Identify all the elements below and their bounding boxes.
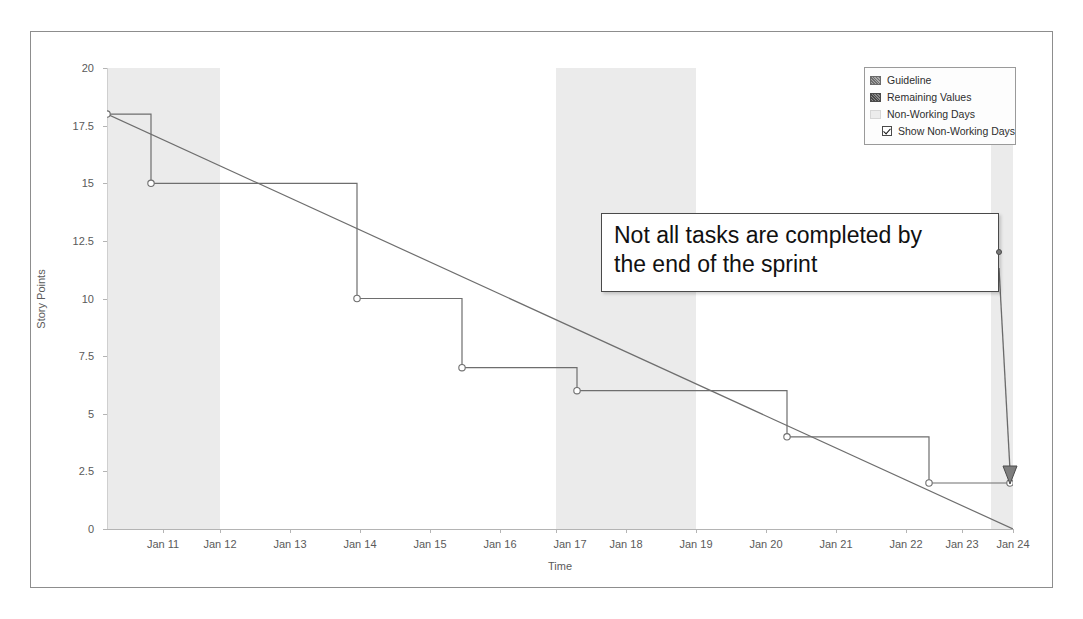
legend-item-non-working-days: Non-Working Days xyxy=(870,106,1010,122)
annotation-callout-text: Not all tasks are completed by the end o… xyxy=(614,221,986,279)
y-tick-label: 12.5 xyxy=(34,235,94,247)
guideline-swatch-icon xyxy=(870,76,881,85)
annotation-line-1: Not all tasks are completed by xyxy=(614,222,922,248)
data-point-marker xyxy=(459,365,465,371)
x-tick-label: Jan 24 xyxy=(978,538,1048,550)
remaining-values-swatch-icon xyxy=(870,93,881,102)
x-tick-mark xyxy=(430,529,431,533)
y-tick-label: 2.5 xyxy=(34,465,94,477)
data-point-marker xyxy=(574,388,580,394)
x-tick-mark xyxy=(766,529,767,533)
x-tick-mark xyxy=(1013,529,1014,533)
y-tick-label: 0 xyxy=(34,523,94,535)
show-non-working-days-checkbox[interactable] xyxy=(882,126,892,136)
legend-item-remaining-values: Remaining Values xyxy=(870,89,1010,105)
document-page: 20 17.5 15 12.5 10 7.5 5 2.5 0 Jan 11 Ja… xyxy=(0,0,1083,619)
x-tick-label: Jan 18 xyxy=(591,538,661,550)
x-tick-mark xyxy=(696,529,697,533)
x-axis-title: Time xyxy=(548,560,572,572)
remaining-values-series xyxy=(107,114,1013,483)
x-tick-label: Jan 16 xyxy=(465,538,535,550)
y-axis-title: Story Points xyxy=(35,269,47,328)
show-non-working-days-label: Show Non-Working Days xyxy=(898,126,1015,137)
y-tick-mark xyxy=(103,529,107,530)
data-point-marker xyxy=(354,295,360,301)
x-tick-label: Jan 21 xyxy=(801,538,871,550)
x-tick-mark xyxy=(836,529,837,533)
x-tick-mark xyxy=(962,529,963,533)
x-axis-line xyxy=(107,529,1013,530)
non-working-days-swatch-icon xyxy=(870,110,881,119)
x-tick-label: Jan 13 xyxy=(255,538,325,550)
x-tick-mark xyxy=(163,529,164,533)
x-tick-mark xyxy=(290,529,291,533)
guideline-series xyxy=(107,114,1013,529)
data-point-marker xyxy=(148,180,154,186)
show-non-working-days-row[interactable]: Show Non-Working Days xyxy=(870,123,1010,139)
x-tick-label: Jan 14 xyxy=(325,538,395,550)
x-tick-mark xyxy=(220,529,221,533)
legend-item-guideline: Guideline xyxy=(870,72,1010,88)
x-tick-label: Jan 12 xyxy=(185,538,255,550)
data-point-marker xyxy=(926,480,932,486)
x-tick-mark xyxy=(556,529,557,533)
callout-resize-handle[interactable] xyxy=(996,249,1002,255)
data-point-marker xyxy=(107,111,110,117)
x-tick-mark xyxy=(626,529,627,533)
x-tick-label: Jan 19 xyxy=(661,538,731,550)
legend-label: Guideline xyxy=(887,75,931,86)
annotation-callout[interactable]: Not all tasks are completed by the end o… xyxy=(601,213,999,292)
data-point-marker xyxy=(1007,480,1013,486)
data-point-marker xyxy=(784,434,790,440)
y-tick-label: 7.5 xyxy=(34,350,94,362)
x-tick-mark xyxy=(906,529,907,533)
y-tick-label: 5 xyxy=(34,408,94,420)
y-tick-label: 15 xyxy=(34,177,94,189)
y-tick-label: 17.5 xyxy=(34,120,94,132)
legend-label: Remaining Values xyxy=(887,92,971,103)
annotation-line-2: the end of the sprint xyxy=(614,251,817,277)
chart-legend: Guideline Remaining Values Non-Working D… xyxy=(864,67,1016,145)
legend-label: Non-Working Days xyxy=(887,109,975,120)
burndown-chart: 20 17.5 15 12.5 10 7.5 5 2.5 0 Jan 11 Ja… xyxy=(0,0,1083,619)
x-tick-mark xyxy=(360,529,361,533)
x-tick-mark xyxy=(500,529,501,533)
x-tick-label: Jan 20 xyxy=(731,538,801,550)
x-tick-label: Jan 15 xyxy=(395,538,465,550)
y-tick-label: 20 xyxy=(34,62,94,74)
